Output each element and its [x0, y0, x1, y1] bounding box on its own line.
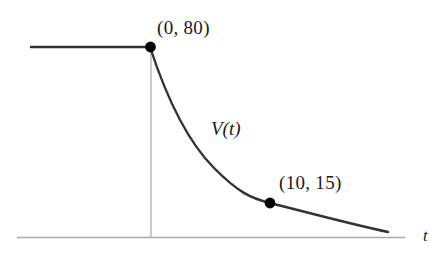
label-x-axis: t: [423, 227, 428, 244]
label-curve-name: V(t): [211, 119, 241, 138]
figure-container: (0, 80) V(t) (10, 15) t: [0, 0, 444, 258]
label-point-start: (0, 80): [157, 18, 210, 37]
data-point-start: [145, 42, 156, 53]
data-point-end: [265, 198, 276, 209]
label-point-end: (10, 15): [279, 173, 342, 192]
